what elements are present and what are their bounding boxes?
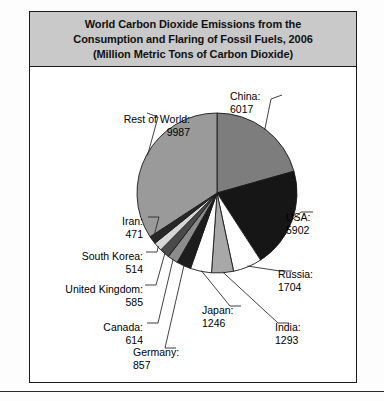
pie-label-rest-of-world-value: 9987	[68, 126, 190, 139]
pie-label-russia-name: Russia:	[278, 268, 313, 281]
pie-label-canada-value: 614	[40, 334, 143, 347]
leader-line-china	[265, 95, 282, 130]
pie-label-united-kingdom-name: United Kingdom:	[32, 283, 143, 296]
chart-container: World Carbon Dioxide Emissions from the …	[29, 11, 357, 383]
pie-label-usa: USA: 5902	[286, 211, 311, 236]
pie-label-germany-value: 857	[133, 359, 179, 372]
pie-label-russia: Russia: 1704	[278, 268, 313, 293]
pie-label-japan-name: Japan:	[202, 304, 234, 317]
pie-label-japan-value: 1246	[202, 317, 234, 330]
pie-label-south-korea-name: South Korea:	[38, 250, 143, 263]
pie-label-china: China: 6017	[230, 90, 260, 115]
pie-label-japan: Japan: 1246	[202, 304, 234, 329]
pie-label-rest-of-world: Rest of World: 9987	[68, 113, 190, 138]
pie-label-south-korea-value: 514	[38, 263, 143, 276]
pie-label-iran: Iran: 471	[60, 215, 143, 240]
pie-label-united-kingdom-value: 585	[32, 296, 143, 309]
leader-line-germany	[165, 265, 184, 348]
leader-line-united-kingdom	[145, 253, 165, 285]
pie-label-canada: Canada: 614	[40, 321, 143, 346]
pie-label-india-name: India:	[275, 321, 301, 334]
pie-label-china-name: China:	[230, 90, 260, 103]
chart-title-line-1: World Carbon Dioxide Emissions from the	[85, 17, 302, 32]
pie-label-rest-of-world-name: Rest of World:	[68, 113, 190, 126]
pie-label-germany-name: Germany:	[133, 346, 179, 359]
leader-line-canada	[147, 259, 173, 323]
pie-label-iran-value: 471	[60, 228, 143, 241]
pie-label-south-korea: South Korea: 514	[38, 250, 143, 275]
pie-label-usa-name: USA:	[286, 211, 311, 224]
pie-label-india-value: 1293	[275, 334, 301, 347]
pie-label-canada-name: Canada:	[40, 321, 143, 334]
page-bottom-rule	[0, 391, 384, 392]
chart-page: World Carbon Dioxide Emissions from the …	[0, 0, 384, 401]
leader-line-south-korea	[146, 246, 158, 252]
pie-label-germany: Germany: 857	[133, 346, 179, 371]
pie-label-usa-value: 5902	[286, 224, 311, 237]
pie-label-russia-value: 1704	[278, 281, 313, 294]
pie-label-iran-name: Iran:	[60, 215, 143, 228]
pie-label-china-value: 6017	[230, 103, 260, 116]
chart-title: World Carbon Dioxide Emissions from the …	[30, 12, 356, 67]
chart-title-line-3: (Million Metric Tons of Carbon Dioxide)	[93, 47, 293, 62]
pie-label-india: India: 1293	[275, 321, 301, 346]
chart-title-line-2: Consumption and Flaring of Fossil Fuels,…	[73, 32, 312, 47]
leader-line-japan	[201, 270, 241, 306]
pie-label-united-kingdom: United Kingdom: 585	[32, 283, 143, 308]
